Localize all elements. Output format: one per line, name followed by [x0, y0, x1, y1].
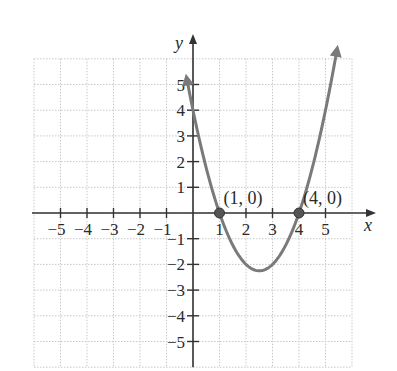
x-tick-label: −5: [47, 220, 65, 239]
y-tick-label: 4: [177, 101, 186, 120]
parabola-graph: −5−4−3−2−112345−5−4−3−2−112345 (1, 0)(4,…: [0, 0, 397, 371]
y-axis-arrow-icon: [189, 34, 197, 44]
x-tick-label: −4: [74, 220, 93, 239]
x-tick-label: 5: [321, 220, 330, 239]
x-tick-label: −3: [100, 220, 118, 239]
x-tick-label: 2: [242, 220, 251, 239]
y-tick-label: 2: [177, 153, 186, 172]
y-axis-label: y: [173, 33, 183, 53]
y-tick-label: 3: [177, 127, 186, 146]
x-intercept-dot: [215, 208, 225, 218]
y-tick-label: 1: [177, 178, 186, 197]
x-intercept-dot: [294, 208, 304, 218]
x-axis-label: x: [363, 215, 372, 235]
x-intercept-label: (1, 0): [224, 188, 263, 209]
curve-right-arrow-icon: [330, 45, 342, 58]
y-tick-label: −2: [167, 255, 185, 274]
x-intercept-label: (4, 0): [303, 188, 342, 209]
y-tick-label: −1: [167, 230, 185, 249]
parabola-curve: [182, 45, 341, 271]
x-tick-label: −2: [127, 220, 145, 239]
y-tick-label: −3: [167, 281, 185, 300]
x-tick-label: 3: [268, 220, 277, 239]
y-tick-label: −4: [167, 307, 186, 326]
y-tick-label: −5: [167, 333, 185, 352]
